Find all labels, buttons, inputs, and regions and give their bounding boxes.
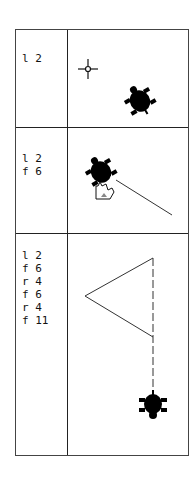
crosshair-icon: [78, 59, 98, 79]
turtle-icon: [120, 80, 160, 121]
triangle-drawing: [85, 258, 153, 392]
hand-cursor-icon: [96, 182, 114, 199]
drawn-line: [116, 180, 172, 215]
turtle-drawings: [0, 0, 194, 484]
turtle-icon: [139, 390, 167, 419]
